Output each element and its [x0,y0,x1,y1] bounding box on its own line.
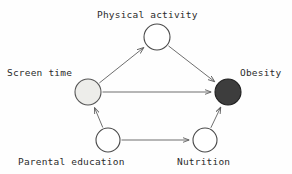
edge-screen_time-to-physical_activity [99,48,143,83]
causal-graph [0,0,292,174]
node-parental_education[interactable] [96,128,120,152]
diagram-canvas: Physical activityScreen timeObesityParen… [0,0,292,174]
edge-physical_activity-to-obesity [168,46,214,82]
node-label-screen_time: Screen time [7,68,72,78]
node-physical_activity[interactable] [144,24,170,50]
edge-parental_education-to-screen_time [95,108,103,128]
node-obesity[interactable] [215,79,241,105]
edge-layer [95,46,221,140]
node-screen_time[interactable] [75,79,101,105]
node-layer [75,24,241,152]
edge-nutrition-to-obesity [211,107,221,127]
node-label-nutrition: Nutrition [177,157,230,167]
node-label-obesity: Obesity [240,68,281,78]
node-label-parental_education: Parental education [18,157,125,167]
node-nutrition[interactable] [193,128,217,152]
node-label-physical_activity: Physical activity [97,10,198,20]
